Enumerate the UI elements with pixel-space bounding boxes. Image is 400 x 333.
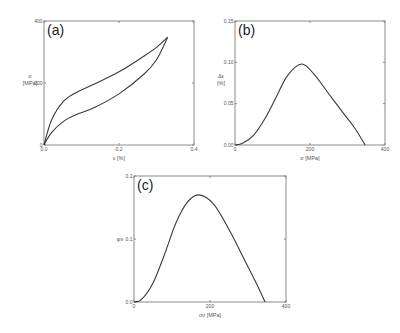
y-axis-label: Δε <box>218 73 225 79</box>
x-tick-label: 200 <box>306 146 315 152</box>
y-tick-label: 0.10 <box>224 59 234 65</box>
y-tick-label: 0.2 <box>126 173 133 179</box>
y-axis-label: σ <box>28 73 32 79</box>
y-axis-unit: [MPa] <box>23 80 38 86</box>
series-phi-v <box>134 195 265 302</box>
x-tick-label: 400 <box>381 146 390 152</box>
panel-label: (a) <box>47 22 64 38</box>
x-tick-label: 0.2 <box>116 146 123 152</box>
plot-frame <box>235 21 385 145</box>
panel-b: 02004000.000.050.100.15(b)σ [MPa]Δε[%] <box>217 18 389 161</box>
x-tick-label: 0.4 <box>191 146 198 152</box>
y-axis-label: φv <box>117 236 124 242</box>
x-tick-label: 0 <box>133 303 136 309</box>
x-tick-label: 0 <box>234 146 237 152</box>
x-axis-label: ε [%] <box>113 155 125 161</box>
y-tick-label: 0.1 <box>126 236 133 242</box>
series-delta-strain <box>235 64 365 145</box>
series-loading <box>44 37 168 145</box>
figure: 0.00.20.40200400(a)ε [%]σ[MPa]02004000.0… <box>0 0 400 333</box>
y-tick-label: 0.00 <box>224 142 234 148</box>
y-tick-label: 0.15 <box>224 18 234 24</box>
y-tick-label: 0.05 <box>224 100 234 106</box>
x-tick-label: 400 <box>282 303 291 309</box>
x-axis-label: σ [MPa] <box>300 155 320 161</box>
x-tick-label: 200 <box>206 303 215 309</box>
x-axis-label: σv [MPa] <box>199 312 222 318</box>
y-tick-label: 0 <box>40 142 43 148</box>
plot-frame <box>44 21 194 145</box>
y-axis-unit: [%] <box>217 80 225 86</box>
panel-c: 02004000.00.10.2(c)σv [MPa]φv <box>117 173 291 318</box>
y-tick-label: 400 <box>34 18 43 24</box>
plot-frame <box>134 176 286 302</box>
panel-label: (c) <box>137 177 153 193</box>
panel-a: 0.00.20.40200400(a)ε [%]σ[MPa] <box>23 18 198 161</box>
panel-label: (b) <box>238 22 255 38</box>
y-tick-label: 0.0 <box>126 299 133 305</box>
